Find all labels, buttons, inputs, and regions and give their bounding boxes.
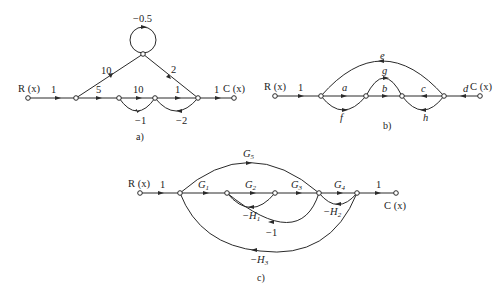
fig-a-gain-2: 2 [171,64,176,75]
fig-b-node-2 [364,94,369,99]
arrow-icon [158,191,164,195]
fig-c-node-1 [178,191,183,196]
arrow-icon [375,191,381,195]
arrow-icon [96,96,102,100]
figure-b: R (x) C (x) 1 a b c d e f g h b) [264,50,492,132]
fig-b-caption: b) [383,120,391,132]
fig-c-gain-input: 1 [160,179,165,190]
fig-a-node-output [232,96,237,101]
fig-a-node-input [26,96,31,101]
fig-b-node-4 [442,94,447,99]
fig-b-node-3 [400,94,405,99]
fig-b-gain-c: c [421,83,426,94]
fig-c-gain-h2: −H2 [323,206,342,219]
fig-c-input-label: R (x) [128,178,150,190]
arrow-icon [460,94,466,98]
fig-a-loop-minus2 [155,98,198,111]
fig-b-node-output [478,94,483,99]
fig-c-caption: c) [257,272,265,284]
fig-c-gain-g5: G5 [243,148,255,161]
arrow-icon [176,109,182,113]
fig-c-gain-g2: G2 [245,179,257,192]
arrow-icon [421,94,427,98]
arrow-icon [215,96,221,100]
signal-flow-graphs: R (x) C (x) 1 5 10 1 1 10 2 −0.5 −1 −2 a… [0,0,504,297]
fig-a-node-2 [117,96,122,101]
fig-c-gain-output: 1 [376,179,381,190]
fig-b-gain-f: f [340,112,345,123]
fig-b-gain-b: b [382,83,387,94]
fig-c-loop-h2 [319,193,357,205]
fig-a-node-3 [153,96,158,101]
fig-a-gain-minus1: −1 [135,115,146,126]
fig-a-gain-out: 1 [214,84,219,95]
arrow-icon [134,109,140,113]
fig-c-node-input [138,191,143,196]
arrow-icon [136,96,142,100]
fig-c-gain-g3: G3 [291,179,303,192]
fig-b-gain-h: h [423,112,428,123]
fig-a-input-label: R (x) [18,83,40,95]
fig-a-caption: a) [136,131,144,143]
arrow-icon [341,94,347,98]
fig-c-node-4 [317,191,322,196]
fig-c-node-3 [273,191,278,196]
fig-c-node-output [394,191,399,196]
fig-a-gain-self-loop: −0.5 [133,13,152,24]
fig-c-loop-h1 [227,193,275,208]
fig-c-loop-h3 [180,193,357,252]
fig-a-gain-input: 1 [51,84,56,95]
fig-a-output-label: C (x) [223,83,245,95]
fig-b-gain-input: 1 [298,82,303,93]
fig-b-gain-a: a [342,82,347,93]
fig-a-node-top [141,52,146,57]
fig-c-output-label: C (x) [384,200,406,212]
fig-a-edge-top-n4 [143,54,198,98]
fig-c-gain-h3: −H3 [250,254,269,267]
fig-b-node-1 [319,94,324,99]
fig-b-gain-e: e [380,50,385,61]
arrow-icon [382,94,388,98]
figure-c: R (x) C (x) 1 1 G1 G2 G3 G4 G5 −H1 −H2 −… [128,148,406,284]
fig-c-loop-minus1 [227,193,319,223]
arrow-icon [251,248,257,252]
fig-a-gain-5: 5 [96,84,101,95]
fig-c-node-2 [225,191,230,196]
fig-b-input-label: R (x) [264,81,286,93]
arrow-icon [298,94,304,98]
fig-b-edge-f [321,96,366,110]
fig-b-edge-h [402,96,444,110]
fig-b-node-input [273,94,278,99]
arrow-icon [268,220,274,224]
fig-b-gain-g: g [382,65,387,76]
arrow-icon [246,161,252,165]
fig-c-gain-minus1: −1 [266,227,277,238]
fig-b-output-label: C (x) [470,81,492,93]
fig-a-node-4 [196,96,201,101]
fig-c-gain-g1: G1 [198,179,209,192]
fig-c-gain-g4: G4 [334,179,346,192]
figure-a: R (x) C (x) 1 5 10 1 1 10 2 −0.5 −1 −2 a… [18,13,245,143]
fig-c-gain-h1: −H1 [242,210,260,223]
fig-a-self-loop [130,27,156,53]
fig-c-node-5 [355,191,360,196]
arrow-icon [141,25,147,29]
fig-a-gain-10-diag: 10 [101,65,112,76]
fig-b-gain-d: d [463,83,469,94]
arrow-icon [175,96,181,100]
arrow-icon [55,96,61,100]
fig-a-gain-1: 1 [175,84,180,95]
fig-a-gain-10-bottom: 10 [133,84,144,95]
fig-a-gain-minus2: −2 [176,115,187,126]
fig-a-node-1 [74,96,79,101]
